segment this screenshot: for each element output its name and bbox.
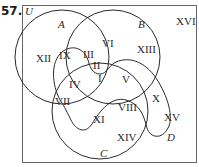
region-label: V xyxy=(122,73,130,85)
region-label: XV xyxy=(164,111,180,123)
venn-diagram: U A B C D I II III IV V VI VII VIII IX X… xyxy=(0,0,199,167)
region-label: XII xyxy=(36,52,52,64)
set-b-label: B xyxy=(138,18,145,30)
region-label: XIV xyxy=(117,131,137,143)
region-label: IX xyxy=(59,49,71,61)
set-a-label: A xyxy=(57,18,65,30)
set-d-label: D xyxy=(166,131,175,143)
region-label: VI xyxy=(102,37,114,49)
region-label: XVI xyxy=(176,15,196,27)
set-c-label: C xyxy=(100,147,108,159)
region-label: XIII xyxy=(137,43,156,55)
region-label: X xyxy=(152,92,160,104)
region-label: I xyxy=(98,72,102,84)
region-label: II xyxy=(93,59,101,71)
region-label: VII xyxy=(55,95,71,107)
region-label: III xyxy=(83,48,94,60)
universe-label: U xyxy=(25,5,34,17)
region-label: IV xyxy=(69,78,81,90)
region-label: VIII xyxy=(118,101,137,113)
region-label: XI xyxy=(93,113,105,125)
